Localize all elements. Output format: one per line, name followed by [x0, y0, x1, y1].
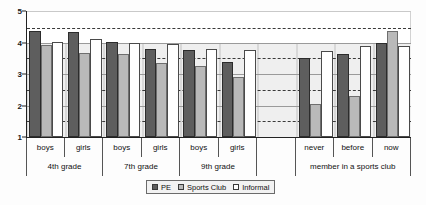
bar-club	[349, 96, 360, 137]
y-tick-mark	[22, 11, 26, 12]
bar-informal	[167, 44, 178, 137]
group-label-girls: girls	[142, 138, 181, 157]
group-label-never: never	[296, 138, 335, 157]
legend-item-informal: Informal	[233, 183, 269, 192]
bar-chart: 54321 boysgirlsboysgirlsboysgirlsneverbe…	[0, 0, 426, 205]
group-label-before: before	[334, 138, 373, 157]
supergroup-label-member-in-a-sports-club: member in a sports club	[296, 157, 412, 176]
supergroup-label-4th-grade: 4th grade	[26, 157, 103, 176]
group-label-girls: girls	[65, 138, 104, 157]
gridline-dashed	[27, 28, 411, 29]
group-label-boys: boys	[26, 138, 65, 157]
y-tick-mark	[22, 105, 26, 106]
bar-club	[41, 45, 52, 137]
bar-pe	[337, 54, 348, 137]
legend-label: PE	[161, 183, 171, 192]
legend-swatch-informal-icon	[233, 184, 239, 190]
bar-pe	[68, 32, 79, 137]
bar-informal	[398, 46, 409, 137]
legend-label: Informal	[242, 183, 269, 192]
bar-club	[118, 54, 129, 137]
bar-club	[387, 31, 398, 137]
bar-club	[156, 63, 167, 137]
gridline	[27, 43, 411, 44]
bar-pe	[183, 50, 194, 137]
bar-informal	[129, 43, 140, 138]
group-label-boys: boys	[103, 138, 142, 157]
bar-club	[310, 104, 321, 137]
group-label-now: now	[373, 138, 412, 157]
supergroup-labels-row: 4th grade7th grade9th grademember in a s…	[26, 157, 411, 176]
legend-swatch-pe-icon	[152, 184, 158, 190]
bar-informal	[360, 46, 371, 137]
bar-informal	[90, 39, 101, 137]
plot-inner	[27, 11, 411, 137]
group-label-girls: girls	[219, 138, 258, 157]
bar-pe	[222, 62, 233, 137]
bar-club	[195, 66, 206, 138]
group-labels-row: boysgirlsboysgirlsboysgirlsneverbeforeno…	[26, 138, 411, 157]
bar-informal	[321, 51, 332, 137]
legend-item-club: Sports Club	[178, 183, 226, 192]
bar-pe	[376, 43, 387, 138]
bar-informal	[244, 50, 255, 137]
bar-pe	[145, 49, 156, 137]
bar-pe	[106, 42, 117, 137]
group-label-boys: boys	[180, 138, 219, 157]
supergroup-label-7th-grade: 7th grade	[103, 157, 180, 176]
legend-label: Sports Club	[187, 183, 226, 192]
bar-informal	[206, 49, 217, 138]
group-label-empty	[257, 138, 296, 157]
supergroup-label-9th-grade: 9th grade	[180, 157, 257, 176]
chart-legend: PESports ClubInformal	[146, 180, 275, 194]
bar-pe	[29, 31, 40, 137]
y-tick-mark	[22, 74, 26, 75]
legend-swatch-club-icon	[178, 184, 184, 190]
bar-informal	[52, 42, 63, 137]
plot-area	[26, 11, 411, 137]
y-tick-mark	[22, 42, 26, 43]
bar-pe	[299, 58, 310, 137]
gridline-top	[27, 11, 411, 12]
bar-club	[233, 77, 244, 137]
supergroup-label-empty	[257, 157, 296, 176]
legend-item-pe: PE	[152, 183, 171, 192]
bar-club	[79, 53, 90, 137]
